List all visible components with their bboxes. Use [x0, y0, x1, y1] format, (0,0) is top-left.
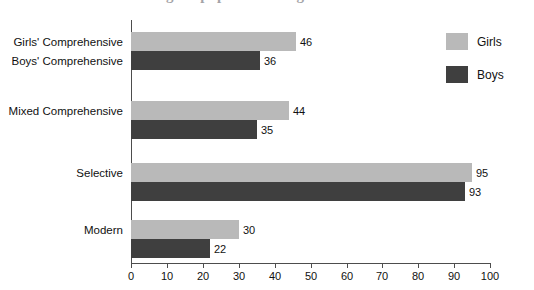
legend: Girls Boys	[446, 33, 534, 99]
bar-value-girls-comprehensive: 46	[296, 36, 312, 48]
category-label-modern: Modern	[84, 225, 123, 237]
bar-boys-mixed[interactable]: 35	[131, 120, 257, 139]
x-tick-label-100: 100	[481, 270, 499, 282]
category-axis-labels: Girls' Comprehensive Boys' Comprehensive…	[0, 20, 127, 263]
bar-value-girls-mixed: 44	[289, 105, 305, 117]
bar-girls-modern[interactable]: 30	[131, 220, 239, 239]
x-tick-label-60: 60	[341, 270, 353, 282]
legend-swatch-girls-icon	[446, 33, 468, 50]
x-tick-label-50: 50	[305, 270, 317, 282]
x-tick-label-70: 70	[376, 270, 388, 282]
x-tick-mark-100	[490, 263, 491, 268]
legend-item-girls[interactable]: Girls	[446, 33, 534, 50]
legend-swatch-boys-icon	[446, 66, 468, 83]
plot-area: 46 36 44 35 95 93 30 22	[131, 20, 490, 263]
bar-value-boys-comprehensive: 36	[260, 55, 276, 67]
x-tick-mark-10	[167, 263, 168, 268]
category-label-mixed-comprehensive: Mixed Comprehensive	[9, 106, 123, 118]
bar-value-girls-selective: 95	[472, 167, 488, 179]
x-tick-mark-20	[203, 263, 204, 268]
legend-label-girls: Girls	[477, 35, 502, 49]
bar-girls-selective[interactable]: 95	[131, 163, 472, 182]
bar-boys-selective[interactable]: 93	[131, 182, 465, 201]
x-tick-label-90: 90	[448, 270, 460, 282]
x-tick-mark-0	[131, 263, 132, 268]
x-tick-mark-50	[311, 263, 312, 268]
x-tick-mark-70	[382, 263, 383, 268]
bar-girls-comprehensive[interactable]: 46	[131, 32, 296, 51]
x-tick-label-30: 30	[233, 270, 245, 282]
bar-value-boys-selective: 93	[465, 186, 481, 198]
bar-value-girls-modern: 30	[239, 224, 255, 236]
x-tick-mark-60	[347, 263, 348, 268]
chart-title: Percentage of pupils achieving 5+ A*–C a…	[0, 0, 534, 4]
bar-boys-modern[interactable]: 22	[131, 239, 210, 258]
x-tick-label-0: 0	[128, 270, 134, 282]
x-tick-mark-80	[418, 263, 419, 268]
bar-value-boys-mixed: 35	[257, 124, 273, 136]
category-label-girls-comprehensive: Girls' Comprehensive	[13, 37, 123, 49]
x-tick-label-40: 40	[269, 270, 281, 282]
legend-label-boys: Boys	[477, 68, 504, 82]
x-tick-mark-30	[239, 263, 240, 268]
bar-boys-comprehensive[interactable]: 36	[131, 51, 260, 70]
x-tick-label-20: 20	[197, 270, 209, 282]
bar-girls-mixed[interactable]: 44	[131, 101, 289, 120]
legend-item-boys[interactable]: Boys	[446, 66, 534, 83]
category-label-selective: Selective	[76, 168, 123, 180]
x-tick-mark-90	[454, 263, 455, 268]
x-tick-mark-40	[275, 263, 276, 268]
category-label-boys-comprehensive: Boys' Comprehensive	[12, 56, 124, 68]
x-tick-label-80: 80	[412, 270, 424, 282]
x-tick-label-10: 10	[161, 270, 173, 282]
bar-value-boys-modern: 22	[210, 243, 226, 255]
